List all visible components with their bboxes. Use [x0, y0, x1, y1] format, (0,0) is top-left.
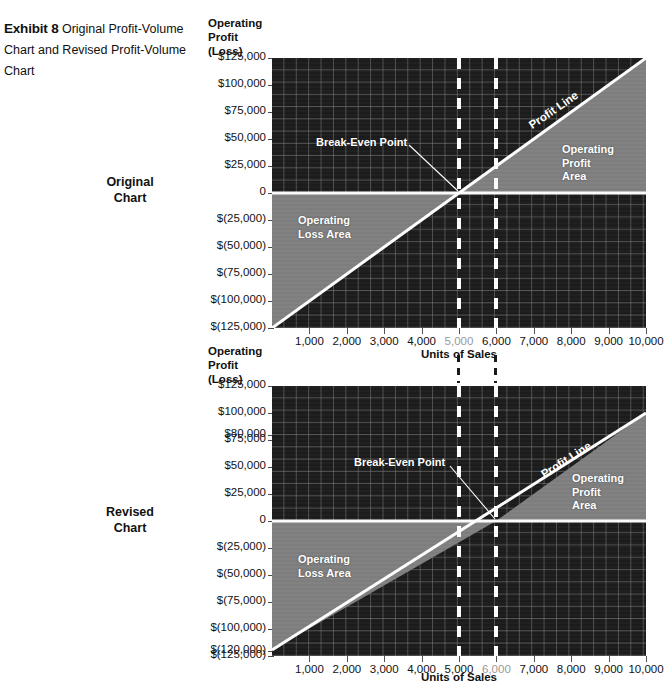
y-tick-label: $(75,000)	[196, 266, 266, 278]
x-tick-mark	[571, 328, 572, 334]
x-tick-mark	[534, 328, 535, 334]
y-tick-mark	[268, 328, 274, 329]
x-tick-mark	[496, 328, 497, 334]
x-tick-mark	[459, 328, 460, 334]
y-tick-label: $(75,000)	[196, 594, 266, 606]
annotation-operating-profit-area-original: Operating Profit Area	[562, 143, 614, 184]
x-tick-mark	[459, 656, 460, 662]
y-tick-label: $(25,000)	[196, 540, 266, 552]
connector-line-6000	[494, 355, 497, 383]
y-tick-label: $(100,000)	[196, 293, 266, 305]
y-tick-label: $(100,000)	[196, 621, 266, 633]
y-tick-label: $25,000	[196, 486, 266, 498]
exhibit-label: Exhibit 8	[4, 21, 58, 36]
y-tick-label: $100,000	[196, 77, 266, 89]
plot-area-original: Break-Even Point Profit Line Operating P…	[272, 58, 646, 328]
y-tick-label: $(25,000)	[196, 212, 266, 224]
y-tick-label: $50,000	[196, 459, 266, 471]
y-tick-label: 0	[196, 513, 266, 525]
exhibit-caption: Exhibit 8 Original Profit-Volume Chart a…	[4, 18, 189, 82]
x-tick-mark	[347, 328, 348, 334]
x-tick-mark	[422, 328, 423, 334]
x-tick-mark	[496, 656, 497, 662]
y-tick-label: $75,000	[196, 432, 266, 444]
x-tick-mark	[609, 328, 610, 334]
x-tick-mark	[534, 656, 535, 662]
annotation-operating-profit-area-revised: Operating Profit Area	[572, 472, 624, 513]
x-tick-mark	[609, 656, 610, 662]
plot-graphics	[272, 58, 646, 328]
x-axis-title-revised: Units of Sales	[272, 671, 646, 683]
chart-side-label-revised: Revised Chart	[55, 504, 205, 536]
y-tick-label: $(50,000)	[196, 567, 266, 579]
y-tick-mark	[268, 656, 274, 657]
plot-graphics	[272, 386, 646, 656]
y-tick-label: $50,000	[196, 131, 266, 143]
x-tick-label: 10,000	[616, 335, 668, 347]
x-tick-mark	[571, 656, 572, 662]
y-tick-label: $100,000	[196, 405, 266, 417]
x-tick-mark	[422, 656, 423, 662]
x-tick-mark	[384, 328, 385, 334]
y-tick-label: $75,000	[196, 104, 266, 116]
y-tick-label: $25,000	[196, 158, 266, 170]
x-tick-mark	[309, 656, 310, 662]
x-tick-mark	[347, 656, 348, 662]
x-tick-mark	[646, 656, 647, 662]
y-tick-label: $(125,000)	[196, 320, 266, 332]
y-tick-label: $125,000	[196, 378, 266, 390]
x-tick-mark	[309, 328, 310, 334]
x-tick-mark	[384, 656, 385, 662]
annotation-break-even-point-revised: Break-Even Point	[354, 456, 445, 470]
annotation-break-even-point-original: Break-Even Point	[316, 136, 407, 150]
y-tick-label: $125,000	[196, 50, 266, 62]
y-tick-label: $(50,000)	[196, 239, 266, 251]
y-tick-label: $(125,000)	[196, 648, 266, 660]
x-tick-mark	[646, 328, 647, 334]
y-tick-label: 0	[196, 185, 266, 197]
chart-side-label-original: Original Chart	[55, 174, 205, 206]
plot-area-revised: Break-Even Point Profit Line Operating P…	[272, 386, 646, 656]
annotation-operating-loss-area-revised: Operating Loss Area	[298, 553, 351, 580]
annotation-operating-loss-area-original: Operating Loss Area	[298, 214, 351, 241]
connector-line-5000	[457, 355, 460, 383]
